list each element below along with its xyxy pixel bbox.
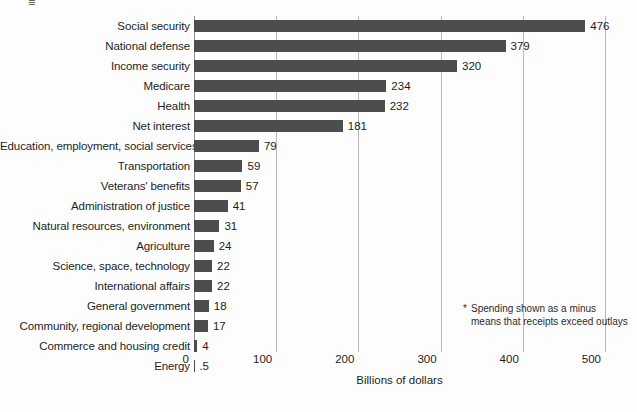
bar-value-label: 41	[233, 200, 246, 212]
bar-and-value: 57	[194, 176, 637, 196]
bar-category-label: Income security	[0, 60, 190, 73]
bar	[194, 240, 214, 252]
bar-value-label: 476	[590, 20, 609, 32]
x-tick-200: 200	[335, 352, 358, 366]
bar-category-label: Commerce and housing credit	[0, 340, 190, 353]
bar-category-label: Health	[0, 100, 190, 113]
bar	[194, 340, 197, 352]
bar-and-value: 22	[194, 256, 637, 276]
bar	[194, 220, 219, 232]
bar-category-label: Agriculture	[0, 240, 190, 253]
bar-category-label: International affairs	[0, 280, 190, 293]
bar-and-value: 234	[194, 76, 637, 96]
bar-row: Education, employment, social services79	[0, 136, 637, 156]
x-tick-0: 0	[183, 352, 194, 366]
x-tick-100: 100	[253, 352, 276, 366]
bar-category-label: National defense	[0, 40, 190, 53]
bar	[194, 260, 212, 272]
bar-value-label: 181	[348, 120, 367, 132]
bar-category-label: Net interest	[0, 120, 190, 133]
footnote: * Spending shown as a minus means that r…	[463, 303, 628, 328]
footnote-marker: *	[463, 303, 467, 316]
bar-and-value: 181	[194, 116, 637, 136]
bar-category-label: Natural resources, environment	[0, 220, 190, 233]
bar-value-label: 17	[213, 320, 226, 332]
bar-category-label: General government	[0, 300, 190, 313]
bar	[194, 80, 386, 92]
bar-category-label: Community, regional development	[0, 320, 190, 333]
x-tick-500: 500	[582, 352, 605, 366]
bar-value-label: 4	[202, 340, 208, 352]
bar-and-value: 79	[194, 136, 637, 156]
bar-row: Natural resources, environment31	[0, 216, 637, 236]
bar-row: Transportation59	[0, 156, 637, 176]
x-axis-title: Billions of dollars	[194, 374, 605, 386]
bar-chart: ≡ Social security476National defense379I…	[0, 0, 637, 412]
bar-and-value: 476	[194, 16, 637, 36]
bar-row: Medicare234	[0, 76, 637, 96]
x-tick-300: 300	[417, 352, 440, 366]
bar-value-label: 31	[224, 220, 237, 232]
bar-row: Social security476	[0, 16, 637, 36]
bar-category-label: Veterans' benefits	[0, 180, 190, 193]
bar-rows: Social security476National defense379Inc…	[0, 0, 637, 336]
bar-category-label: Science, space, technology	[0, 260, 190, 273]
x-tick-400: 400	[500, 352, 523, 366]
bar-value-label: 57	[246, 180, 259, 192]
bar-category-label: Education, employment, social services	[0, 140, 190, 153]
bar-value-label: 79	[264, 140, 277, 152]
bar-row: Veterans' benefits57	[0, 176, 637, 196]
bar-and-value: 31	[194, 216, 637, 236]
bar-value-label: 18	[214, 300, 227, 312]
bar-value-label: 22	[217, 260, 230, 272]
bar-value-label: 234	[391, 80, 410, 92]
bar	[194, 120, 343, 132]
bar-and-value: 41	[194, 196, 637, 216]
bar-row: National defense379	[0, 36, 637, 56]
bar-and-value: 320	[194, 56, 637, 76]
bar-row: Science, space, technology22	[0, 256, 637, 276]
bar-and-value: 379	[194, 36, 637, 56]
bar-row: Income security320	[0, 56, 637, 76]
bar-row: Agriculture24	[0, 236, 637, 256]
bar-category-label: Social security	[0, 20, 190, 33]
bar	[194, 100, 385, 112]
bar-value-label: 320	[462, 60, 481, 72]
bar	[194, 320, 208, 332]
x-axis-tick-labels: 0100200300400500	[0, 352, 637, 370]
bar	[194, 40, 506, 52]
bar-value-label: 379	[511, 40, 530, 52]
bar-and-value: 22	[194, 276, 637, 296]
bar-value-label: 232	[390, 100, 409, 112]
bar-category-label: Medicare	[0, 80, 190, 93]
bar-value-label: 22	[217, 280, 230, 292]
bar	[194, 200, 228, 212]
footnote-line-1: Spending shown as a minus	[463, 303, 628, 316]
bar-row: International affairs22	[0, 276, 637, 296]
bar	[194, 180, 241, 192]
bar	[194, 160, 242, 172]
bar-row: Health232	[0, 96, 637, 116]
bar	[194, 300, 209, 312]
bar-and-value: 24	[194, 236, 637, 256]
bar-category-label: Transportation	[0, 160, 190, 173]
bar-value-label: 59	[247, 160, 260, 172]
bar-and-value: 59	[194, 156, 637, 176]
bar	[194, 60, 457, 72]
bar-row: Net interest181	[0, 116, 637, 136]
bar-and-value: 232	[194, 96, 637, 116]
bar-row: Administration of justice41	[0, 196, 637, 216]
bar-category-label: Administration of justice	[0, 200, 190, 213]
bar	[194, 140, 259, 152]
bar-value-label: 24	[219, 240, 232, 252]
footnote-line-2: means that receipts exceed outlays	[463, 316, 628, 329]
bar	[194, 20, 585, 32]
bar	[194, 280, 212, 292]
